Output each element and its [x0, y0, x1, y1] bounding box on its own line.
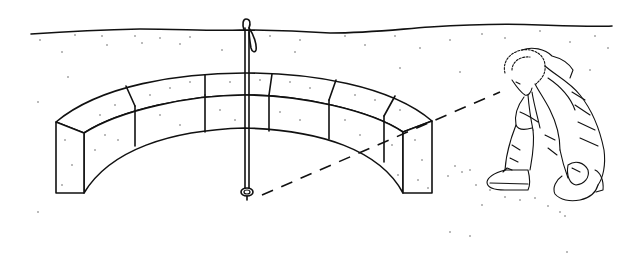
horizon-line	[31, 24, 612, 34]
snow-shelter-illustration: Line drawing of a person in a hooded win…	[0, 0, 641, 258]
snow-block-wall	[56, 73, 432, 193]
kneeling-person	[487, 48, 605, 201]
